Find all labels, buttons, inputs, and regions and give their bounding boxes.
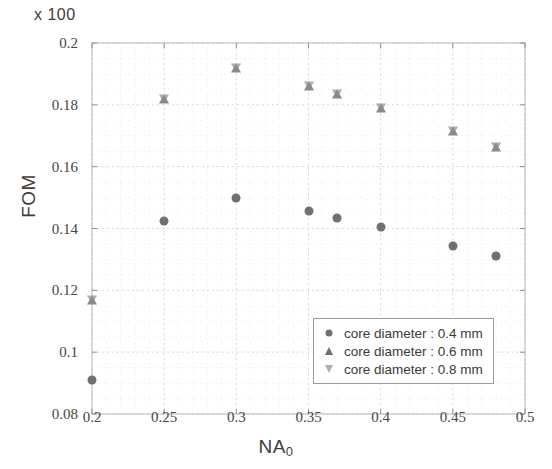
legend-item: core diameter : 0.8 mm (321, 360, 483, 378)
data-point-triangle-up (87, 295, 97, 304)
x-tick-label: 0.25 (134, 409, 194, 426)
data-point-triangle-up (304, 82, 314, 91)
x-tick-label: 0.3 (206, 409, 266, 426)
legend-item-label: core diameter : 0.4 mm (344, 326, 483, 341)
data-point-circle (448, 241, 457, 250)
y-tick-label: 0.12 (12, 282, 78, 299)
legend-item: core diameter : 0.6 mm (321, 342, 483, 360)
legend: core diameter : 0.4 mm core diameter : 0… (313, 318, 494, 384)
data-point-circle (304, 207, 313, 216)
data-point-circle (88, 375, 97, 384)
data-point-circle (376, 222, 385, 231)
x-tick-label: 0.4 (351, 409, 411, 426)
plot-area (0, 0, 552, 469)
y-tick-label: 0.18 (12, 96, 78, 113)
data-point-triangle-up (491, 142, 501, 151)
data-point-triangle-up (231, 63, 241, 72)
y-tick-label: 0.14 (12, 220, 78, 237)
data-point-circle (333, 213, 342, 222)
data-point-circle (232, 193, 241, 202)
x-tick-label: 0.5 (495, 409, 552, 426)
y-tick-label: 0.1 (12, 344, 78, 361)
x-tick-label: 0.2 (62, 409, 122, 426)
x-tick-label: 0.45 (423, 409, 483, 426)
y-tick-label: 0.2 (12, 35, 78, 52)
chart-figure: x 100 FOM NA0 0.080.10.120.140.160.180.2… (0, 0, 552, 469)
triangle-up-marker-icon (321, 344, 337, 358)
data-point-triangle-up (448, 127, 458, 136)
legend-item-label: core diameter : 0.8 mm (344, 362, 483, 377)
data-point-triangle-up (332, 90, 342, 99)
data-point-triangle-up (376, 103, 386, 112)
data-point-circle (160, 216, 169, 225)
circle-marker-icon (321, 326, 337, 340)
legend-item: core diameter : 0.4 mm (321, 324, 483, 342)
triangle-down-marker-icon (321, 362, 337, 376)
legend-item-label: core diameter : 0.6 mm (344, 344, 483, 359)
y-tick-label: 0.16 (12, 158, 78, 175)
data-point-triangle-up (159, 94, 169, 103)
x-tick-label: 0.35 (279, 409, 339, 426)
data-point-circle (492, 252, 501, 261)
